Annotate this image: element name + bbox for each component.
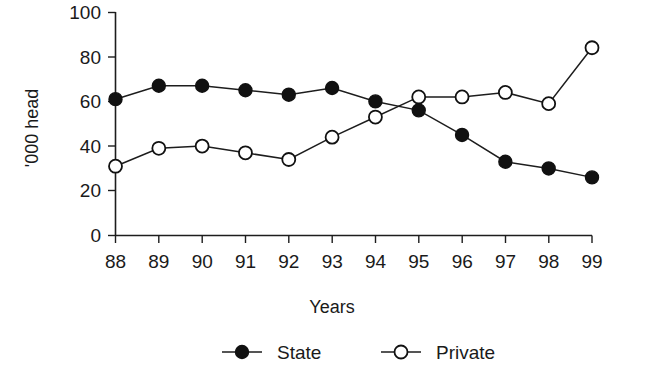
y-tick-label-0: 0 xyxy=(90,225,101,246)
data-point-state-90 xyxy=(196,79,209,92)
legend-label-private: Private xyxy=(436,342,495,363)
x-tick-label-90: 90 xyxy=(192,251,213,272)
data-point-private-93 xyxy=(326,131,339,144)
y-tick-label-60: 60 xyxy=(80,91,101,112)
data-point-private-94 xyxy=(369,111,382,124)
x-axis-ticks xyxy=(116,236,593,244)
x-tick-label-91: 91 xyxy=(235,251,256,272)
data-point-state-92 xyxy=(282,88,295,101)
y-tick-label-40: 40 xyxy=(80,136,101,157)
data-point-state-98 xyxy=(542,162,555,175)
data-point-state-93 xyxy=(326,81,339,94)
data-point-private-99 xyxy=(586,41,599,54)
line-chart-plot: 100 80 60 40 20 0 88 89 90 91 92 93 94 9… xyxy=(0,0,649,373)
x-tick-label-96: 96 xyxy=(452,251,473,272)
x-tick-label-93: 93 xyxy=(322,251,343,272)
y-axis-title: '000 head xyxy=(22,89,42,168)
series-line-private xyxy=(116,48,593,166)
data-point-state-96 xyxy=(456,128,469,141)
x-tick-label-94: 94 xyxy=(365,251,387,272)
x-tick-label-89: 89 xyxy=(148,251,169,272)
data-point-state-94 xyxy=(369,95,382,108)
legend-label-state: State xyxy=(277,342,321,363)
data-point-state-89 xyxy=(152,79,165,92)
data-point-private-95 xyxy=(412,90,425,103)
data-point-state-99 xyxy=(586,171,599,184)
data-point-state-95 xyxy=(412,104,425,117)
data-point-state-88 xyxy=(109,93,122,106)
series-line-state xyxy=(116,86,593,178)
data-point-state-97 xyxy=(499,155,512,168)
legend-marker-state-icon xyxy=(236,346,249,359)
data-point-private-90 xyxy=(196,140,209,153)
data-point-state-91 xyxy=(239,84,252,97)
y-tick-label-20: 20 xyxy=(80,180,101,201)
x-tick-label-92: 92 xyxy=(278,251,299,272)
x-tick-label-88: 88 xyxy=(105,251,126,272)
x-tick-label-95: 95 xyxy=(408,251,429,272)
y-tick-label-100: 100 xyxy=(69,2,101,23)
x-tick-label-98: 98 xyxy=(538,251,559,272)
data-point-private-97 xyxy=(499,86,512,99)
x-axis-title: Years xyxy=(309,297,354,317)
series-markers-private xyxy=(109,41,599,172)
legend: State Private xyxy=(222,342,495,363)
data-point-private-92 xyxy=(282,153,295,166)
data-point-private-88 xyxy=(109,160,122,173)
data-point-private-91 xyxy=(239,146,252,159)
x-tick-label-97: 97 xyxy=(495,251,516,272)
y-axis-ticks xyxy=(108,13,116,236)
chart-figure: 100 80 60 40 20 0 88 89 90 91 92 93 94 9… xyxy=(0,0,649,373)
legend-marker-private-icon xyxy=(395,346,408,359)
data-point-private-96 xyxy=(456,90,469,103)
x-tick-label-99: 99 xyxy=(581,251,602,272)
data-point-private-89 xyxy=(152,142,165,155)
data-point-private-98 xyxy=(542,97,555,110)
y-tick-label-80: 80 xyxy=(80,47,101,68)
